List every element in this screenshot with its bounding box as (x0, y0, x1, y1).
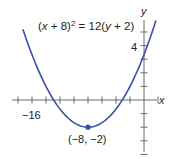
equation-label: (x + 8)2 = 12(y + 2) (38, 19, 134, 32)
x-tick-label-neg16: −16 (22, 109, 41, 121)
y-axis-label: y (140, 5, 148, 17)
vertex-point (85, 125, 90, 130)
parabola-curve (23, 21, 156, 128)
parabola-chart: (x + 8)2 = 12(y + 2) y x −16 4 (−8, −2) (0, 0, 172, 165)
y-tick-label-4: 4 (131, 41, 137, 53)
vertex-label: (−8, −2) (68, 133, 107, 145)
x-axis-label: x (158, 94, 165, 106)
